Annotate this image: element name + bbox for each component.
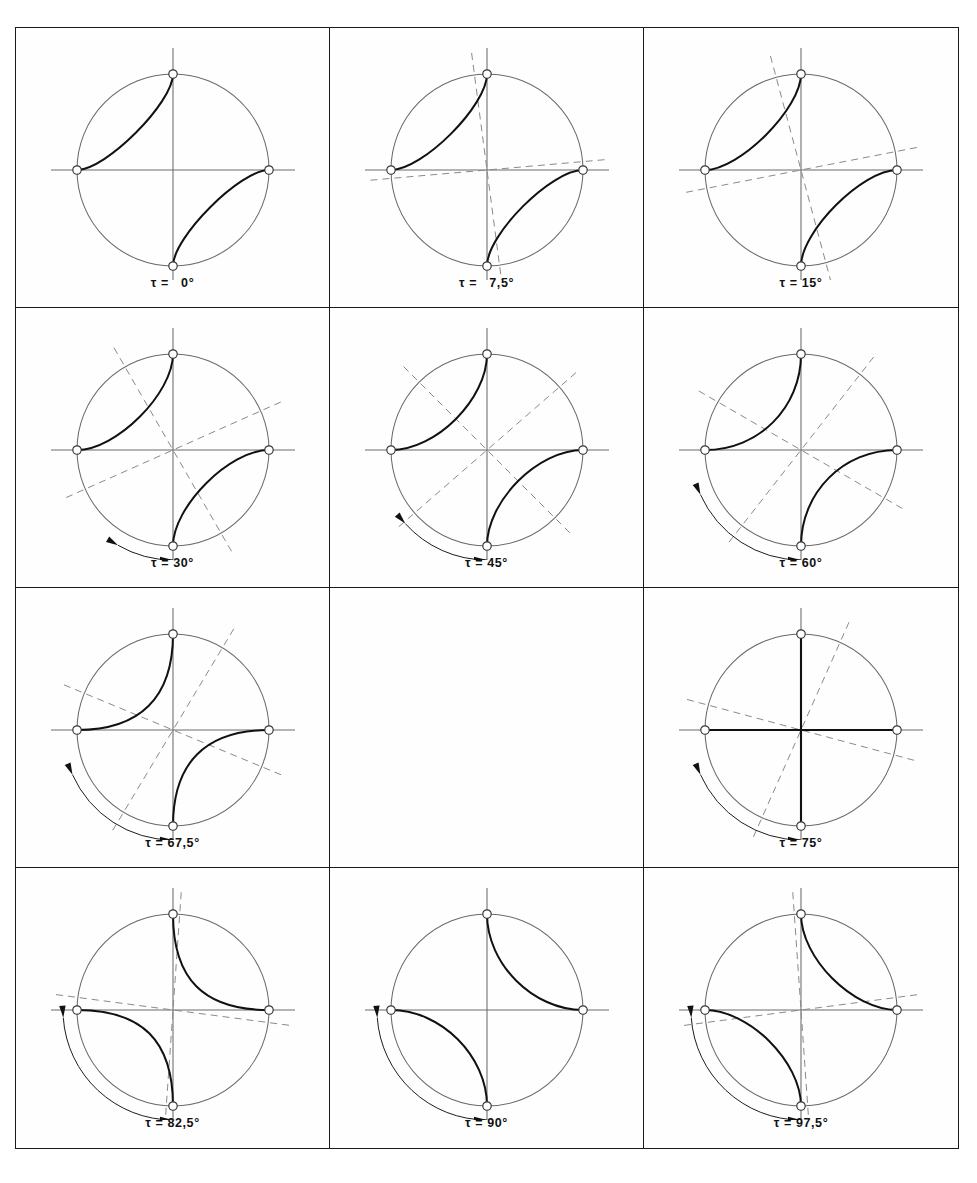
trajectory-curve-2 <box>173 170 269 266</box>
stereonet-panel-tau-75 <box>651 590 951 840</box>
panel-label-panel-tau-15: τ = 15° <box>780 276 823 290</box>
rotation-arc <box>72 775 172 840</box>
pole-marker-1 <box>797 630 805 638</box>
panel-cell-panel-tau-60: τ = 60° <box>644 308 958 588</box>
panel-cell-panel-tau-30: τ = 30° <box>16 308 330 588</box>
pole-marker-2 <box>72 166 80 174</box>
pole-marker-2 <box>701 1006 709 1014</box>
stereonet-panel-tau-60 <box>651 310 951 560</box>
trajectory-curve-1 <box>391 74 487 170</box>
rotation-arc <box>701 775 801 840</box>
pole-marker-1 <box>168 350 176 358</box>
stereonet-panel-tau-97-5 <box>651 870 951 1120</box>
panel-label-panel-tau-97-5: τ = 97,5° <box>774 1116 829 1130</box>
pole-marker-4 <box>578 166 586 174</box>
panel-cell-panel-tau-67-5: τ = 67,5° <box>16 588 330 868</box>
pole-marker-1 <box>168 70 176 78</box>
panel-cell-panel-tau-0: τ = 0° <box>16 28 330 308</box>
pole-marker-2 <box>701 166 709 174</box>
pole-marker-2 <box>386 446 394 454</box>
trajectory-curve-1 <box>173 914 269 1010</box>
panel-label-panel-tau-0: τ = 0° <box>151 276 195 290</box>
panel-cell-panel-tau-90: τ = 90° <box>330 868 644 1148</box>
panel-label-panel-tau-7-5: τ = 7,5° <box>459 276 514 290</box>
pole-marker-1 <box>168 910 176 918</box>
panel-label-panel-tau-90: τ = 90° <box>465 1116 508 1130</box>
trajectory-curve-2 <box>705 1010 801 1106</box>
pole-marker-3 <box>168 542 176 550</box>
pole-marker-2 <box>72 726 80 734</box>
rotation-arrowhead-end <box>59 1005 65 1017</box>
panel-cell-panel-tau-75: τ = 75° <box>644 588 958 868</box>
pole-marker-1 <box>482 70 490 78</box>
pole-marker-2 <box>701 726 709 734</box>
rotation-arrowhead-end <box>64 762 72 774</box>
stereonet-panel-tau-15 <box>651 30 951 280</box>
pole-marker-4 <box>893 446 901 454</box>
pole-marker-2 <box>386 166 394 174</box>
stereonet-panel-tau-67-5 <box>23 590 323 840</box>
pole-marker-2 <box>72 1006 80 1014</box>
trajectory-curve-2 <box>801 450 897 546</box>
figure-frame: τ = 0°τ = 7,5°τ = 15°τ = 30°τ = 45°τ = 6… <box>15 27 959 1149</box>
trajectory-curve-2 <box>801 170 897 266</box>
pole-marker-1 <box>797 350 805 358</box>
pole-marker-3 <box>482 1102 490 1110</box>
panel-label-panel-tau-30: τ = 30° <box>151 556 194 570</box>
pole-marker-3 <box>168 1102 176 1110</box>
pole-marker-1 <box>797 910 805 918</box>
pole-marker-4 <box>578 1006 586 1014</box>
panel-label-panel-tau-60: τ = 60° <box>780 556 823 570</box>
rotation-arc <box>701 495 801 560</box>
stereonet-panel-tau-82-5 <box>23 870 323 1120</box>
rotation-arrowhead-end <box>106 536 118 545</box>
trajectory-curve-1 <box>705 354 801 450</box>
pole-marker-4 <box>264 446 272 454</box>
panel-label-panel-tau-45: τ = 45° <box>465 556 508 570</box>
rotation-arrowhead-end <box>373 1005 379 1017</box>
panel-cell-panel-tau-45: τ = 45° <box>330 308 644 588</box>
pole-marker-3 <box>797 1102 805 1110</box>
pole-marker-3 <box>797 262 805 270</box>
pole-marker-1 <box>797 70 805 78</box>
panel-cell-empty <box>330 588 644 868</box>
pole-marker-3 <box>797 542 805 550</box>
pole-marker-3 <box>168 822 176 830</box>
pole-marker-4 <box>893 166 901 174</box>
trajectory-curve-1 <box>77 354 173 450</box>
panel-label-panel-tau-82-5: τ = 82,5° <box>145 1116 200 1130</box>
trajectory-curve-2 <box>173 730 269 826</box>
rotation-arrowhead-end <box>693 482 701 494</box>
pole-marker-2 <box>386 1006 394 1014</box>
pole-marker-1 <box>482 350 490 358</box>
pole-marker-2 <box>72 446 80 454</box>
rotation-arc <box>405 524 487 560</box>
panel-cell-panel-tau-7-5: τ = 7,5° <box>330 28 644 308</box>
stereonet-panel-tau-45 <box>337 310 637 560</box>
panel-label-panel-tau-67-5: τ = 67,5° <box>145 836 200 850</box>
stereonet-panel-tau-90 <box>337 870 637 1120</box>
panel-grid: τ = 0°τ = 7,5°τ = 15°τ = 30°τ = 45°τ = 6… <box>16 28 958 1148</box>
pole-marker-4 <box>893 1006 901 1014</box>
panel-cell-panel-tau-97-5: τ = 97,5° <box>644 868 958 1148</box>
stereonet-panel-tau-0 <box>23 30 323 280</box>
trajectory-curve-2 <box>391 1010 487 1106</box>
trajectory-curve-1 <box>77 634 173 730</box>
trajectory-curve-2 <box>487 170 583 266</box>
rotation-arrowhead-end <box>687 1005 693 1017</box>
pole-marker-4 <box>264 1006 272 1014</box>
trajectory-curve-1 <box>705 74 801 170</box>
pole-marker-3 <box>482 542 490 550</box>
panel-cell-panel-tau-15: τ = 15° <box>644 28 958 308</box>
pole-marker-2 <box>701 446 709 454</box>
pole-marker-3 <box>168 262 176 270</box>
rotation-arrowhead-end <box>394 513 404 524</box>
pole-marker-3 <box>482 262 490 270</box>
trajectory-curve-1 <box>801 914 897 1010</box>
pole-marker-4 <box>893 726 901 734</box>
rotation-arrowhead-end <box>693 762 701 774</box>
stereonet-panel-tau-7-5 <box>337 30 637 280</box>
trajectory-curve-2 <box>77 1010 173 1106</box>
pole-marker-4 <box>264 166 272 174</box>
trajectory-curve-1 <box>77 74 173 170</box>
